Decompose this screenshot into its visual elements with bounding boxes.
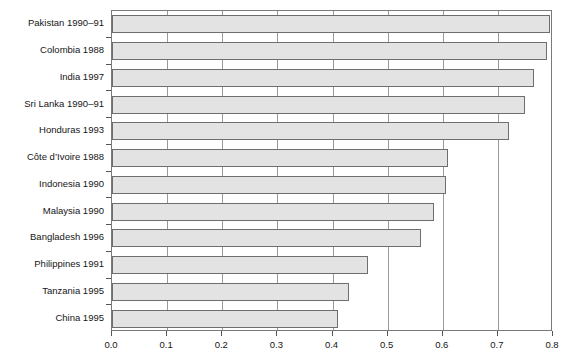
value-tick-label: 0.2 [201, 339, 241, 350]
category-tick [106, 197, 111, 198]
clipped-title-remnant [0, 0, 569, 6]
value-tick-label: 0.5 [367, 339, 407, 350]
value-tick [166, 331, 167, 336]
value-tick [276, 331, 277, 336]
bar[interactable] [112, 176, 446, 194]
value-tick-label: 0.4 [312, 339, 352, 350]
value-tick [332, 331, 333, 336]
value-tick [442, 331, 443, 336]
value-tick-label: 0.0 [91, 339, 131, 350]
bar[interactable] [112, 42, 547, 60]
bar[interactable] [112, 203, 434, 221]
category-label: Philippines 1991 [34, 258, 104, 269]
category-tick [106, 117, 111, 118]
value-tick [552, 331, 553, 336]
bar[interactable] [112, 256, 368, 274]
value-tick-label: 0.3 [256, 339, 296, 350]
bar[interactable] [112, 310, 338, 328]
category-label: Pakistan 1990–91 [28, 17, 104, 28]
value-tick [111, 331, 112, 336]
value-tick [497, 331, 498, 336]
category-label: Tanzania 1995 [42, 285, 104, 296]
value-tick-label: 0.6 [422, 339, 462, 350]
category-label: Bangladesh 1996 [30, 231, 104, 242]
category-tick [106, 90, 111, 91]
bar[interactable] [112, 149, 448, 167]
category-tick [106, 144, 111, 145]
value-tick-label: 0.1 [146, 339, 186, 350]
bar[interactable] [112, 283, 349, 301]
category-label: Colombia 1988 [40, 44, 104, 55]
bars-layer [112, 11, 551, 330]
category-label: Malaysia 1990 [43, 205, 104, 216]
value-tick [387, 331, 388, 336]
category-tick [106, 171, 111, 172]
category-tick [106, 304, 111, 305]
category-label: Honduras 1993 [39, 124, 104, 135]
bar[interactable] [112, 96, 525, 114]
value-tick [221, 331, 222, 336]
value-tick-label: 0.7 [477, 339, 517, 350]
bar[interactable] [112, 229, 421, 247]
category-tick [106, 251, 111, 252]
category-tick [106, 278, 111, 279]
category-label: Indonesia 1990 [39, 178, 104, 189]
horizontal-bar-chart: Pakistan 1990–91Colombia 1988India 1997S… [0, 0, 569, 360]
bar[interactable] [112, 69, 534, 87]
category-label: India 1997 [60, 71, 104, 82]
category-label: Sri Lanka 1990–91 [24, 98, 104, 109]
value-tick-label: 0.8 [532, 339, 569, 350]
category-tick [106, 37, 111, 38]
category-tick [106, 64, 111, 65]
category-label: China 1995 [55, 312, 104, 323]
plot-area [111, 10, 552, 331]
category-label: Côte d’Ivoire 1988 [27, 151, 104, 162]
category-tick [106, 224, 111, 225]
bar[interactable] [112, 122, 509, 140]
bar[interactable] [112, 15, 550, 33]
